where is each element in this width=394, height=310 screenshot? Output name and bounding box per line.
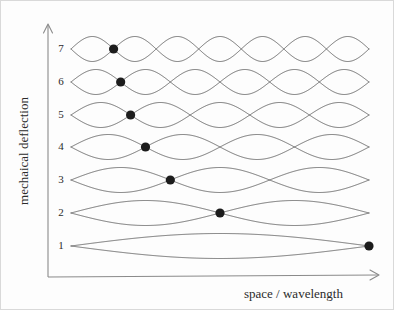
y-axis-title: mechaical deflection xyxy=(16,97,31,205)
wave-curves-group xyxy=(71,37,369,259)
node-markers-group xyxy=(109,44,374,250)
node-marker-mode-2 xyxy=(215,208,224,217)
node-marker-mode-5 xyxy=(126,110,135,119)
standing-wave-modes-figure: 1234567 mechaical deflection space / wav… xyxy=(0,0,394,310)
y-tick-labels-group: 1234567 xyxy=(58,42,64,251)
wave-envelope-mode-4 xyxy=(71,135,369,160)
y-tick-label-4: 4 xyxy=(58,140,64,152)
node-marker-mode-3 xyxy=(166,175,175,184)
wave-envelope-mode-3 xyxy=(71,168,369,193)
x-axis-title: space / wavelength xyxy=(244,286,343,301)
axes-group xyxy=(44,24,380,280)
node-marker-mode-6 xyxy=(116,77,125,86)
wave-envelope-mode-6 xyxy=(71,70,369,95)
x-axis-line xyxy=(48,275,378,277)
node-marker-mode-1 xyxy=(364,241,373,250)
plot-canvas: 1234567 mechaical deflection space / wav… xyxy=(1,1,394,310)
node-marker-mode-7 xyxy=(109,44,118,53)
y-tick-label-1: 1 xyxy=(58,239,64,251)
y-tick-label-6: 6 xyxy=(58,75,64,87)
node-marker-mode-4 xyxy=(141,142,150,151)
y-tick-label-3: 3 xyxy=(58,173,64,185)
wave-envelope-mode-3 xyxy=(71,168,369,193)
y-tick-label-5: 5 xyxy=(58,108,64,120)
y-tick-label-7: 7 xyxy=(58,42,64,54)
wave-envelope-mode-1 xyxy=(71,234,369,247)
wave-envelope-mode-1 xyxy=(71,246,369,259)
y-tick-label-2: 2 xyxy=(58,206,64,218)
